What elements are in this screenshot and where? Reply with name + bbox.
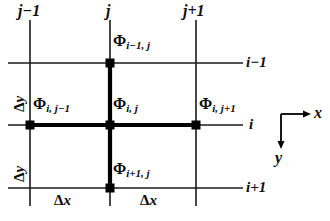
column-label-j-plus-1: j+1 — [183, 3, 205, 19]
row-label-i: i — [249, 117, 253, 132]
delta-symbol: Δ — [54, 192, 63, 208]
node-marker-phi-i-j-plus-1 — [192, 121, 201, 130]
delta-symbol: Δ — [11, 103, 27, 112]
axis-label-y: y — [275, 150, 282, 166]
axis-y-arrowhead — [278, 141, 285, 149]
phi-symbol: Φ — [33, 95, 46, 112]
delta-variable: x — [63, 192, 71, 208]
node-label-phi-i-minus-1-j: Φi−1, j — [113, 33, 150, 49]
delta-variable: x — [149, 192, 157, 208]
phi-subscript: i, j+1 — [212, 102, 235, 114]
node-label-phi-i-j-plus-1: Φi, j+1 — [199, 96, 236, 112]
axis-x-arrowhead — [303, 111, 311, 118]
row-label-i-plus-1: i+1 — [246, 180, 266, 195]
spacing-label-delta-y-upper: Δy — [12, 96, 27, 112]
column-label-j-minus-1: j−1 — [18, 3, 40, 19]
axis-label-x: x — [314, 105, 322, 121]
node-label-phi-i-plus-1-j: Φi+1, j — [113, 161, 150, 177]
node-label-phi-i-j-minus-1: Φi, j−1 — [33, 96, 70, 112]
phi-subscript: i+1, j — [126, 167, 149, 179]
column-label-j: j — [106, 3, 110, 19]
delta-symbol: Δ — [140, 192, 149, 208]
node-marker-phi-i-minus-1-j — [106, 59, 115, 68]
delta-symbol: Δ — [11, 173, 27, 182]
phi-symbol: Φ — [113, 95, 126, 112]
phi-symbol: Φ — [199, 95, 212, 112]
node-marker-phi-i-plus-1-j — [106, 184, 115, 193]
node-label-phi-i-j: Φi, j — [113, 96, 138, 112]
coordinate-axes — [278, 111, 312, 150]
phi-subscript: i, j−1 — [46, 102, 70, 114]
delta-variable: y — [11, 96, 27, 103]
finite-difference-grid-figure: j−1 j j+1 i−1 i i+1 Φi−1, j Φi, j−1 Φi, … — [0, 0, 330, 221]
delta-variable: y — [11, 166, 27, 173]
spacing-label-delta-x-right: Δx — [140, 193, 157, 208]
phi-symbol: Φ — [113, 32, 126, 49]
spacing-label-delta-x-left: Δx — [54, 193, 71, 208]
node-marker-phi-i-j-minus-1 — [26, 121, 35, 130]
phi-subscript: i, j — [126, 102, 138, 114]
row-label-i-minus-1: i−1 — [246, 55, 267, 70]
phi-symbol: Φ — [113, 160, 126, 177]
node-marker-phi-i-j — [106, 121, 115, 130]
spacing-label-delta-y-lower: Δy — [12, 166, 27, 182]
phi-subscript: i−1, j — [126, 39, 150, 51]
